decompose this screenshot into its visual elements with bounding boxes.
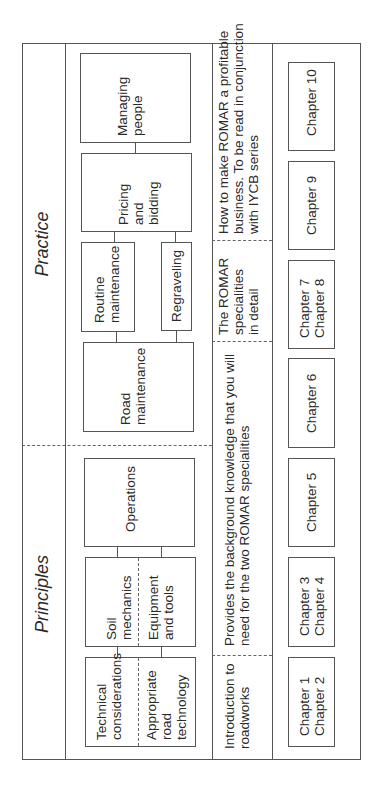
- topic-equipment-and-tools: Equipment and tools: [146, 575, 176, 640]
- chapter-box-9: Chapter 9: [288, 161, 335, 250]
- connector-technical-soil-2: [161, 647, 162, 657]
- description-divider-3: [212, 240, 272, 241]
- topic-box-routine-maintenance: Routine maintenance: [81, 242, 135, 332]
- chapter-box-3-4: Chapter 3 Chapter 4: [288, 557, 335, 647]
- description-business: How to make ROMAR a profitable business.…: [216, 23, 261, 234]
- topic-box-soil: Soil mechanics Equipment and tools: [85, 557, 196, 647]
- topic-pricing-and-bidding: Pricing and bidding: [116, 181, 161, 225]
- topic-box-road-maintenance: Road maintenance: [83, 342, 194, 432]
- topic-soil-mechanics: Soil mechanics: [104, 575, 134, 640]
- description-intro: Introduction to roadworks: [222, 663, 252, 749]
- connector-road-regraveling: [176, 331, 177, 342]
- topic-managing-people: Managing people: [115, 77, 145, 136]
- description-divider-1: [212, 655, 272, 656]
- chapter-label: Chapter 3 Chapter 4: [297, 577, 327, 636]
- roadworks-overview-diagram: Principles Practice Technical considerat…: [0, 0, 383, 806]
- chapter-label: Chapter 1 Chapter 2: [297, 677, 327, 736]
- section-label-principles: Principles: [32, 554, 53, 634]
- topic-technical-considerations: Technical considerations: [94, 653, 124, 740]
- connector-soil-operations-2: [161, 547, 162, 557]
- chapter-label: Chapter 7 Chapter 8: [297, 279, 327, 338]
- divider-topics-row: [212, 43, 213, 760]
- topic-box-technical: Technical considerations Appropriate roa…: [85, 657, 196, 747]
- description-background: Provides the background knowledge that y…: [222, 354, 252, 646]
- topic-regraveling: Regraveling: [169, 250, 184, 322]
- topic-box-pricing-and-bidding: Pricing and bidding: [81, 153, 192, 232]
- principles-practice-divider: [22, 445, 212, 446]
- chapter-label: Chapter 9: [304, 176, 319, 235]
- description-divider-2: [212, 341, 272, 342]
- divider-header-row: [65, 43, 66, 760]
- chapter-box-5: Chapter 5: [288, 458, 335, 547]
- topic-routine-maintenance: Routine maintenance: [92, 246, 122, 323]
- chapter-box-7-8: Chapter 7 Chapter 8: [288, 260, 335, 349]
- connector-technical-soil-1: [117, 647, 118, 657]
- topic-box-regraveling: Regraveling: [161, 242, 192, 331]
- topic-operations: Operations: [123, 466, 138, 532]
- topic-split-dash: [138, 658, 139, 746]
- description-specialities: The ROMAR specialities in detail: [216, 258, 261, 335]
- topic-road-maintenance: Road maintenance: [118, 348, 148, 425]
- chapter-box-6: Chapter 6: [288, 358, 335, 448]
- section-label-practice: Practice: [32, 204, 53, 284]
- divider-description-row: [272, 43, 273, 760]
- chapter-box-10: Chapter 10: [288, 62, 335, 151]
- connector-routine-pricing: [114, 232, 115, 242]
- connector-soil-operations-1: [117, 547, 118, 557]
- topic-box-managing-people: Managing people: [80, 53, 191, 143]
- chapter-box-1-2: Chapter 1 Chapter 2: [288, 657, 335, 747]
- connector-road-routine: [116, 332, 117, 342]
- chapter-label: Chapter 10: [304, 69, 319, 136]
- topic-box-operations: Operations: [84, 458, 195, 547]
- topic-split-dash: [138, 558, 139, 646]
- connector-regraveling-pricing: [175, 232, 176, 242]
- topic-appropriate-road-technology: Appropriate road technology: [144, 670, 189, 740]
- chapter-label: Chapter 6: [304, 374, 319, 433]
- chapter-label: Chapter 5: [304, 473, 319, 532]
- connector-pricing-managing: [135, 143, 136, 153]
